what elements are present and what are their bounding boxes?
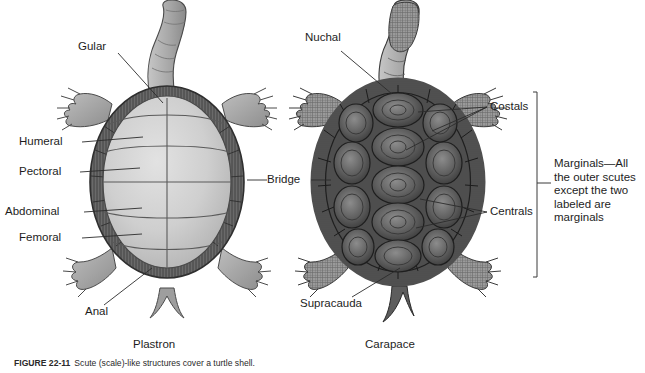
figure-caption: FIGURE 22-11Scute (scale)-like structure… [14,358,255,369]
label-plastron-caption: Plastron [133,338,175,352]
label-abdominal: Abdominal [5,205,59,219]
label-centrals: Centrals [490,205,533,219]
figure-caption-number: FIGURE 22-11 [14,358,70,368]
label-carapace-caption: Carapace [365,338,415,352]
carapace-illustration [289,0,507,322]
label-femoral: Femoral [19,231,61,245]
label-costals: Costals [490,100,528,114]
label-bridge: Bridge [267,173,300,187]
marginals-bracket [533,92,551,277]
figure-caption-text: Scute (scale)-like structures cover a tu… [74,358,255,368]
label-gular: Gular [78,40,106,54]
plastron-head-neck [148,0,186,96]
label-pectoral: Pectoral [19,165,61,179]
label-marginals: Marginals—All the outer scutes except th… [554,157,645,225]
plastron-tail [150,288,184,318]
label-nuchal: Nuchal [305,31,341,45]
label-supracauda: Supracauda [300,297,362,311]
carapace-tail [383,286,414,322]
label-anal: Anal [85,305,108,319]
label-humeral: Humeral [19,135,62,149]
